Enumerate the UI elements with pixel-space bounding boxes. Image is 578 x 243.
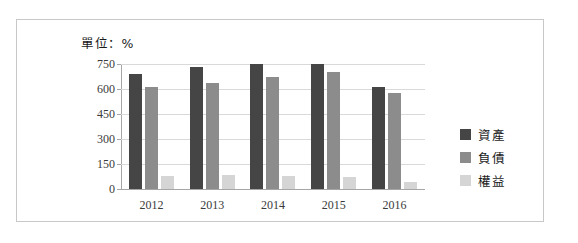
bar-group [243, 63, 304, 189]
legend-item[interactable]: 權益 [460, 169, 505, 192]
bar[interactable] [129, 74, 142, 189]
bar[interactable] [343, 177, 356, 189]
legend-item[interactable]: 資產 [460, 123, 505, 146]
y-axis-tick-label: 750 [77, 57, 115, 72]
x-axis-tick-label: 2015 [303, 198, 364, 213]
bar[interactable] [311, 64, 324, 189]
bar[interactable] [327, 72, 340, 189]
chart-frame: 單位：% 0150300450600750 201220132014201520… [16, 19, 544, 222]
bar[interactable] [250, 64, 263, 189]
bar[interactable] [206, 83, 219, 189]
y-axis-tick-mark [117, 189, 121, 190]
bar[interactable] [282, 176, 295, 189]
y-axis-tick-label: 300 [77, 132, 115, 147]
bar[interactable] [404, 182, 417, 189]
x-axis-tick-label: 2014 [243, 198, 304, 213]
bar[interactable] [372, 87, 385, 190]
legend-swatch-icon [460, 152, 471, 163]
bar[interactable] [145, 87, 158, 189]
bar-group [303, 63, 364, 189]
x-axis-tick-label: 2016 [364, 198, 425, 213]
legend-item-label: 資產 [478, 125, 505, 144]
plot-area: 0150300450600750 20122013201420152016 [121, 64, 425, 190]
chart-unit-label: 單位：% [81, 33, 134, 52]
legend-item[interactable]: 負債 [460, 146, 505, 169]
legend-swatch-icon [460, 129, 471, 140]
chart-legend: 資產負債權益 [460, 123, 505, 192]
bar-group [121, 63, 182, 189]
y-axis-tick-label: 600 [77, 82, 115, 97]
bar-group [182, 63, 243, 189]
x-axis-tick-label: 2012 [121, 198, 182, 213]
x-axis-line [121, 189, 425, 190]
bar[interactable] [161, 176, 174, 189]
legend-item-label: 負債 [478, 148, 505, 167]
y-axis-tick-label: 0 [77, 182, 115, 197]
bar-group [364, 63, 425, 189]
bar[interactable] [266, 77, 279, 190]
legend-swatch-icon [460, 175, 471, 186]
bar[interactable] [222, 175, 235, 189]
y-axis-tick-label: 450 [77, 107, 115, 122]
bar[interactable] [388, 93, 401, 189]
bar[interactable] [190, 67, 203, 189]
x-axis-tick-label: 2013 [182, 198, 243, 213]
y-axis-tick-label: 150 [77, 157, 115, 172]
legend-item-label: 權益 [478, 171, 505, 190]
